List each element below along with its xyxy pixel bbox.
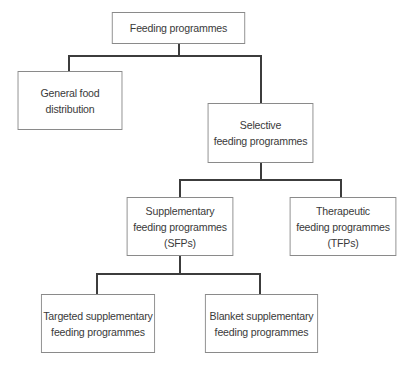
node-blanket-supplementary: Blanket supplementary feeding programmes	[205, 294, 318, 353]
connector-sfp-down	[179, 255, 181, 275]
connector-to-selective	[260, 55, 262, 103]
node-therapeutic-feeding-programmes: Therapeutic feeding programmes (TFPs)	[290, 197, 397, 256]
connector-to-blanket	[259, 273, 261, 294]
node-label: Targeted supplementary feeding programme…	[43, 308, 152, 340]
node-label: General food distribution	[41, 85, 100, 117]
connector-level3-bar	[96, 273, 261, 275]
node-label: Therapeutic feeding programmes (TFPs)	[296, 203, 390, 251]
node-label: Blanket supplementary feeding programmes	[210, 308, 314, 340]
connector-level1-bar	[68, 55, 262, 57]
connector-to-targeted	[96, 273, 98, 294]
node-label: Selective feeding programmes	[214, 117, 308, 149]
node-general-food-distribution: General food distribution	[18, 71, 123, 130]
connector-to-tfp	[340, 179, 342, 197]
node-label: Feeding programmes	[130, 20, 227, 36]
connector-level2-bar	[179, 179, 342, 181]
node-feeding-programmes: Feeding programmes	[112, 12, 245, 44]
node-selective-feeding-programmes: Selective feeding programmes	[208, 103, 314, 163]
connector-to-sfp	[179, 179, 181, 197]
node-targeted-supplementary: Targeted supplementary feeding programme…	[41, 294, 155, 353]
connector-to-general	[68, 55, 70, 71]
node-supplementary-feeding-programmes: Supplementary feeding programmes (SFPs)	[127, 197, 234, 256]
node-label: Supplementary feeding programmes (SFPs)	[133, 203, 227, 251]
